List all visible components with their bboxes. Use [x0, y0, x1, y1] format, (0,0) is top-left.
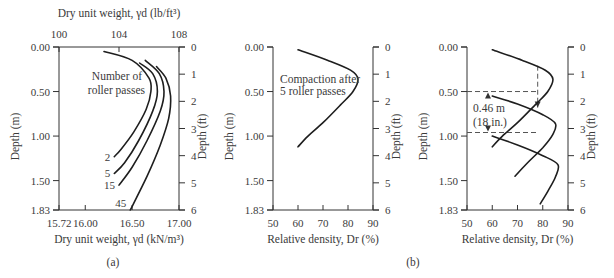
x-tick-label: 16.50 [120, 217, 145, 229]
y-tick-label: 0.00 [31, 41, 51, 53]
chart-b-left: 0.000.501.001.501.8301234565060708090Rel… [223, 41, 403, 246]
x-tick-label: 50 [462, 217, 474, 229]
y-tick-label: 1.83 [439, 204, 459, 216]
x-axis-label: Relative density, Dr (%) [267, 233, 379, 246]
x-axis-label: Relative density, Dr (%) [462, 233, 574, 246]
x-tick-label: 80 [343, 217, 355, 229]
y-tick-label: 0.50 [439, 86, 459, 98]
x-tick-label: 70 [318, 217, 330, 229]
y-tick-label: 1.50 [31, 175, 51, 187]
y-tick-label: 1.00 [31, 130, 51, 142]
y-right-tick-label: 5 [385, 177, 391, 189]
x-tick-label: 60 [487, 217, 499, 229]
y-axis-label: Depth (m) [417, 113, 430, 161]
y-right-tick-label: 5 [191, 177, 197, 189]
x-tick-label: 16.00 [73, 217, 98, 229]
y-right-tick-label: 0 [580, 41, 586, 53]
y-right-tick-label: 5 [580, 177, 586, 189]
series-label: 45 [115, 197, 127, 209]
arrow-up-icon [485, 93, 491, 99]
x-tick-label: 50 [268, 217, 280, 229]
y-right-tick-label: 2 [385, 95, 391, 107]
data-curve [104, 52, 151, 157]
y-tick-label: 1.00 [439, 130, 459, 142]
y-tick-label: 0.00 [439, 41, 459, 53]
y-tick-label: 1.83 [31, 204, 51, 216]
y-right-axis-label: Depth (ft) [585, 114, 598, 160]
y-tick-label: 1.83 [245, 204, 265, 216]
x-tick-label: 90 [368, 217, 380, 229]
x-top-axis-label: Dry unit weight, γd (lb/ft³) [58, 7, 181, 20]
y-tick-label: 1.50 [245, 175, 265, 187]
y-tick-label: 1.00 [245, 130, 265, 142]
x-tick-label: 17.00 [167, 217, 192, 229]
caption-b: (b) [406, 256, 420, 269]
y-right-tick-label: 2 [191, 95, 197, 107]
caption-a: (a) [107, 256, 120, 269]
y-axis-label: Depth (m) [9, 113, 22, 161]
y-right-tick-label: 6 [580, 204, 586, 216]
series-label: 5 [105, 167, 111, 179]
y-tick-label: 0.50 [245, 86, 265, 98]
y-tick-label: 0.50 [31, 86, 51, 98]
annotation: roller passes [88, 84, 146, 97]
y-right-tick-label: 0 [385, 41, 391, 53]
annotation: Number of [92, 70, 142, 82]
series-label: 15 [104, 179, 116, 191]
y-axis-label: Depth (m) [223, 113, 236, 161]
y-right-tick-label: 1 [580, 68, 586, 80]
y-right-tick-label: 0 [191, 41, 197, 53]
x-tick-label: 90 [563, 217, 575, 229]
chart-a: 0.000.501.001.501.83012345615.7216.0016.… [9, 7, 209, 246]
data-curve [298, 50, 358, 147]
data-curve [492, 136, 558, 204]
y-tick-label: 1.50 [439, 175, 459, 187]
x-tick-label: 60 [293, 217, 305, 229]
x-axis-label: Dry unit weight, γd (kN/m³) [54, 233, 184, 246]
annotation: 5 roller passes [280, 85, 346, 98]
y-right-tick-label: 6 [385, 204, 391, 216]
y-right-tick-label: 2 [580, 95, 586, 107]
x-top-tick-label: 104 [111, 28, 128, 40]
x-tick-label: 15.72 [47, 217, 72, 229]
y-right-tick-label: 1 [191, 68, 197, 80]
figure: 0.000.501.001.501.83012345615.7216.0016.… [0, 0, 614, 278]
y-tick-label: 0.00 [245, 41, 265, 53]
y-right-axis-label: Depth (ft) [196, 114, 209, 160]
dimension-label: (18 in.) [473, 116, 507, 129]
x-tick-label: 80 [537, 217, 549, 229]
y-right-tick-label: 6 [191, 204, 197, 216]
dimension-label: 0.46 m [473, 102, 505, 114]
y-right-tick-label: 1 [385, 68, 391, 80]
series-label: 2 [105, 151, 111, 163]
x-top-tick-label: 100 [51, 28, 68, 40]
chart-b-right: 0.000.501.001.501.8301234565060708090Rel… [417, 41, 598, 246]
x-top-tick-label: 108 [171, 28, 188, 40]
x-tick-label: 70 [512, 217, 524, 229]
y-right-axis-label: Depth (ft) [390, 114, 403, 160]
